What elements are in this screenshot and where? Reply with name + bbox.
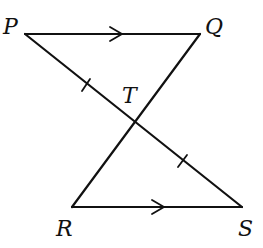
geometry-diagram: P Q T R S	[0, 0, 263, 248]
label-r: R	[55, 216, 73, 241]
label-t: T	[122, 83, 139, 108]
label-p: P	[2, 14, 19, 39]
label-s: S	[238, 216, 253, 241]
segment-ps	[25, 34, 242, 207]
segment-qr	[72, 34, 200, 207]
label-q: Q	[205, 14, 223, 39]
